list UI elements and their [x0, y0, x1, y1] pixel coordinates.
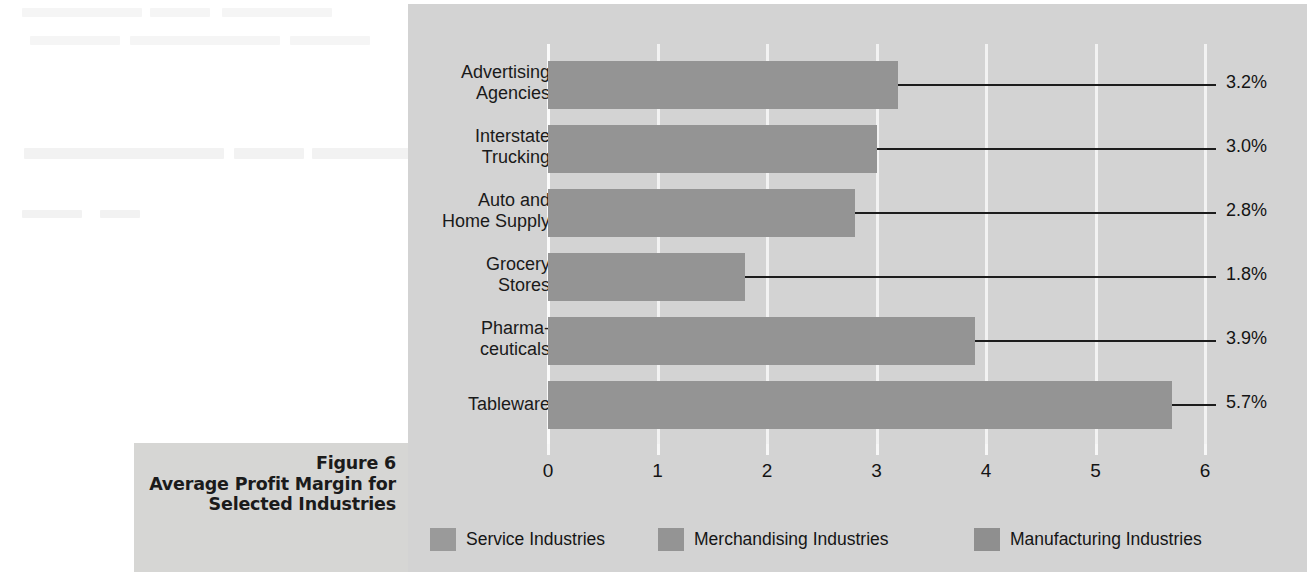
bar[interactable]	[548, 189, 855, 237]
category-label-line: Interstate	[370, 126, 550, 147]
leader-line	[877, 148, 1217, 150]
x-tick-label: 0	[533, 460, 563, 482]
figure-number: Figure 6	[140, 453, 396, 474]
x-tick-label: 4	[971, 460, 1001, 482]
x-tick-mark	[1095, 444, 1098, 455]
bar-row[interactable]: AdvertisingAgencies3.2%	[408, 57, 1307, 121]
category-label: Auto andHome Supply	[370, 188, 550, 232]
bleed-artifact	[234, 148, 304, 159]
bleed-artifact	[150, 8, 210, 17]
bar[interactable]	[548, 253, 745, 301]
bleed-artifact	[222, 8, 332, 17]
bar[interactable]	[548, 61, 898, 109]
category-label-line: Trucking	[370, 147, 550, 168]
chart-legend: Service IndustriesMerchandising Industri…	[408, 516, 1307, 562]
category-label-line: Grocery	[370, 254, 550, 275]
category-label-line: Tableware	[370, 394, 550, 415]
value-label: 2.8%	[1226, 200, 1267, 221]
bar-row[interactable]: GroceryStores1.8%	[408, 249, 1307, 313]
category-label-line: Agencies	[370, 83, 550, 104]
leader-line	[975, 340, 1216, 342]
value-label: 3.9%	[1226, 328, 1267, 349]
bleed-artifact	[30, 36, 120, 45]
bar[interactable]	[548, 381, 1172, 429]
bleed-artifact	[24, 148, 224, 159]
x-tick-label: 1	[643, 460, 673, 482]
category-label: InterstateTrucking	[370, 124, 550, 168]
value-label: 3.2%	[1226, 72, 1267, 93]
bleed-artifact	[100, 210, 140, 218]
figure-page: Figure 6 Average Profit Margin for Selec…	[0, 0, 1307, 572]
bar-row[interactable]: Auto andHome Supply2.8%	[408, 185, 1307, 249]
legend-item[interactable]: Service Industries	[430, 528, 605, 551]
legend-swatch	[974, 528, 1000, 551]
category-label: Pharma-ceuticals	[370, 316, 550, 360]
category-label: GroceryStores	[370, 252, 550, 296]
bar-row[interactable]: InterstateTrucking3.0%	[408, 121, 1307, 185]
chart-panel: AdvertisingAgencies3.2%InterstateTruckin…	[408, 4, 1307, 572]
x-tick-label: 3	[862, 460, 892, 482]
legend-swatch	[430, 528, 456, 551]
bleed-artifact	[130, 36, 280, 45]
legend-label: Service Industries	[466, 529, 605, 550]
x-tick-label: 6	[1190, 460, 1220, 482]
category-label: Tableware	[370, 392, 550, 415]
x-tick-mark	[876, 444, 879, 455]
legend-item[interactable]: Merchandising Industries	[658, 528, 889, 551]
category-label: AdvertisingAgencies	[370, 60, 550, 104]
value-label: 3.0%	[1226, 136, 1267, 157]
leader-line	[898, 84, 1216, 86]
x-tick-mark	[657, 444, 660, 455]
x-tick-mark	[766, 444, 769, 455]
legend-label: Merchandising Industries	[694, 529, 889, 550]
x-tick-mark	[985, 444, 988, 455]
x-tick-mark	[1204, 444, 1207, 455]
leader-line	[1172, 404, 1216, 406]
category-label-line: Pharma-	[370, 318, 550, 339]
leader-line	[855, 212, 1216, 214]
legend-label: Manufacturing Industries	[1010, 529, 1202, 550]
bar-row[interactable]: Tableware5.7%	[408, 377, 1307, 441]
figure-title-line-2: Selected Industries	[140, 494, 396, 515]
legend-swatch	[658, 528, 684, 551]
value-label: 1.8%	[1226, 264, 1267, 285]
category-label-line: Home Supply	[370, 211, 550, 232]
bar[interactable]	[548, 317, 975, 365]
bleed-artifact	[22, 8, 142, 17]
plot-area: AdvertisingAgencies3.2%InterstateTruckin…	[408, 4, 1307, 449]
bar-row[interactable]: Pharma-ceuticals3.9%	[408, 313, 1307, 377]
category-label-line: Stores	[370, 275, 550, 296]
bleed-artifact	[22, 210, 82, 218]
category-label-line: Auto and	[370, 190, 550, 211]
x-tick-label: 5	[1081, 460, 1111, 482]
category-label-line: ceuticals	[370, 339, 550, 360]
x-axis: 0123456	[408, 444, 1307, 496]
figure-title-line-1: Average Profit Margin for	[140, 474, 396, 495]
x-tick-label: 2	[752, 460, 782, 482]
figure-caption-band: Figure 6 Average Profit Margin for Selec…	[134, 443, 410, 572]
category-label-line: Advertising	[370, 62, 550, 83]
value-label: 5.7%	[1226, 392, 1267, 413]
bleed-artifact	[290, 36, 370, 45]
leader-line	[745, 276, 1216, 278]
bar[interactable]	[548, 125, 877, 173]
x-tick-mark	[547, 444, 550, 455]
legend-item[interactable]: Manufacturing Industries	[974, 528, 1202, 551]
